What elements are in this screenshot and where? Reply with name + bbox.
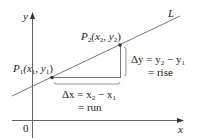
delta-y-rise: = rise [148,67,173,78]
rise-brace [124,47,126,76]
delta-x-run: = run [78,102,102,113]
y-axis-label: y [23,11,28,22]
slope-diagram: y x 0 L P1(x1, y1) P2(x2, y2) Δy = y2 − … [0,0,208,138]
p2-label: P2(x2, y2) [81,31,121,44]
point-p1 [50,76,54,80]
origin-label: 0 [23,123,29,134]
y-axis-arrow-icon [30,12,35,19]
run-brace [54,82,120,84]
line-label: L [168,8,174,19]
p1-label: P1(x1, y1) [13,63,53,76]
x-axis-label: x [178,124,183,135]
